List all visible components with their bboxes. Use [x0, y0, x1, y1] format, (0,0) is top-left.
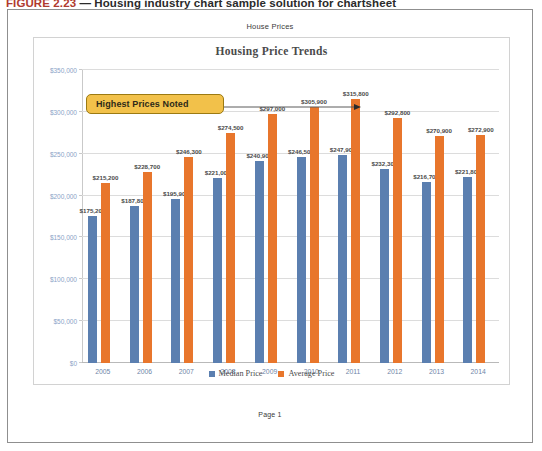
bar-median[interactable]: [422, 182, 431, 363]
y-axis-tick-label: $350,000: [50, 67, 77, 74]
bar-median[interactable]: [380, 169, 389, 363]
bar-median[interactable]: [255, 161, 264, 363]
bar-value-label: $315,800: [343, 90, 369, 97]
bar-group: $247,900$315,8002011: [332, 70, 374, 363]
bar-average[interactable]: [268, 114, 277, 363]
bar-median[interactable]: [88, 216, 97, 363]
bar-group: $216,700$270,9002013: [416, 70, 458, 363]
bar-median[interactable]: [338, 155, 347, 363]
figure-caption-text: Housing industry chart sample solution f…: [94, 0, 396, 9]
bar-average[interactable]: [351, 99, 360, 363]
bar-average[interactable]: [184, 157, 193, 363]
bar-average[interactable]: [310, 107, 319, 363]
bar-group: $232,300$292,8002012: [374, 70, 416, 363]
bar-average[interactable]: [476, 135, 485, 363]
bar-value-label: $228,700: [134, 163, 160, 170]
bar-median[interactable]: [130, 206, 139, 363]
chart-object[interactable]: Housing Price Trends $350,000$300,000$25…: [33, 37, 510, 385]
sheet-footer: Page 1: [8, 411, 532, 418]
legend-item[interactable]: Median Price: [209, 369, 263, 378]
figure-dash: —: [79, 0, 91, 9]
legend-label: Average Price: [288, 369, 334, 378]
callout-arrow-icon: [224, 102, 364, 112]
y-axis-tick-label: $50,000: [54, 318, 78, 325]
bar-median[interactable]: [171, 199, 180, 363]
bar-group: $221,800$272,9002014: [457, 70, 499, 363]
y-axis-tick-label: $250,000: [50, 150, 77, 157]
bar-group: $240,900$297,0002009: [249, 70, 291, 363]
bar-value-label: $270,900: [426, 127, 452, 134]
y-axis-tick-label: $0: [70, 360, 77, 367]
chart-title: Housing Price Trends: [34, 45, 509, 57]
bar-value-label: $292,800: [384, 109, 410, 116]
bar-average[interactable]: [435, 136, 444, 363]
y-axis-tick-label: $150,000: [50, 234, 77, 241]
callout-highest-prices[interactable]: Highest Prices Noted: [86, 94, 224, 114]
legend-swatch: [278, 371, 284, 377]
bar-median[interactable]: [463, 177, 472, 363]
sheet-header: House Prices: [8, 22, 532, 31]
legend-swatch: [209, 371, 215, 377]
legend-item[interactable]: Average Price: [278, 369, 334, 378]
figure-number: FIGURE 2.23: [6, 0, 76, 9]
y-axis-tick-label: $200,000: [50, 192, 77, 199]
bar-group: $246,500$305,9002010: [291, 70, 333, 363]
bar-average[interactable]: [101, 183, 110, 363]
bar-median[interactable]: [213, 178, 222, 363]
bar-average[interactable]: [143, 172, 152, 363]
y-axis-tick-label: $100,000: [50, 276, 77, 283]
chartsheet-page: House Prices Housing Price Trends $350,0…: [7, 9, 533, 443]
chart-legend: Median PriceAverage Price: [34, 369, 509, 378]
legend-label: Median Price: [219, 369, 263, 378]
figure-caption: FIGURE 2.23 — Housing industry chart sam…: [6, 0, 536, 9]
bar-value-label: $246,300: [176, 148, 202, 155]
bar-median[interactable]: [297, 157, 306, 363]
bar-average[interactable]: [226, 133, 235, 363]
y-axis-tick-label: $300,000: [50, 108, 77, 115]
bar-value-label: $215,200: [93, 174, 119, 181]
callout-label: Highest Prices Noted: [87, 99, 189, 109]
bar-value-label: $274,500: [218, 124, 244, 131]
bar-average[interactable]: [393, 118, 402, 363]
bar-value-label: $272,900: [468, 126, 494, 133]
